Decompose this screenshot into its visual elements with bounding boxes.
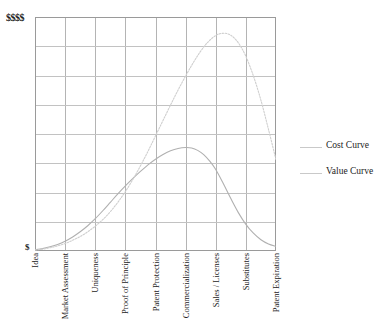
legend-swatch-value-curve (300, 173, 322, 174)
legend-item-cost-curve: Cost Curve (300, 136, 378, 162)
x-axis-tick-text: Patent Protection (151, 253, 160, 311)
legend-item-value-curve: Value Curve (300, 162, 378, 188)
x-axis-tick-text: Substitutes (242, 253, 251, 290)
y-axis-top-label: $$$$ (6, 12, 24, 23)
plot-area (35, 17, 276, 251)
chart-canvas: $$$$ $ IdeaMarket AssessmentUniquenessPr… (0, 0, 381, 336)
x-axis-tick-label: Sales / Licenses (209, 253, 223, 336)
chart-legend: Cost Curve Value Curve (300, 136, 378, 188)
x-axis-tick-label: Uniqueness (88, 253, 102, 336)
x-axis-tick-text: Commercialization (181, 253, 190, 318)
x-axis-tick-label: Patent Protection (149, 253, 163, 336)
x-axis-tick-label: Proof of Principle (118, 253, 132, 336)
y-axis-bottom-label: $ (25, 242, 30, 252)
series-line-value-curve (35, 33, 276, 250)
chart-svg (35, 17, 276, 251)
x-axis-tick-text: Patent Expiration (272, 253, 281, 312)
legend-label-value-curve: Value Curve (326, 166, 373, 176)
series-line-cost-curve (35, 148, 276, 250)
legend-label-cost-curve: Cost Curve (326, 140, 369, 150)
x-axis-tick-label: Patent Expiration (269, 253, 283, 336)
x-axis-tick-label: Market Assessment (58, 253, 72, 336)
legend-swatch-cost-curve (300, 147, 322, 148)
x-axis-tick-text: Sales / Licenses (212, 253, 221, 307)
series-lines (35, 33, 276, 250)
x-axis-tick-label: Idea (28, 253, 42, 336)
x-axis-tick-text: Market Assessment (61, 253, 70, 319)
x-axis-labels: IdeaMarket AssessmentUniquenessProof of … (35, 253, 276, 336)
x-axis-tick-label: Commercialization (179, 253, 193, 336)
x-axis-tick-text: Proof of Principle (121, 253, 130, 314)
x-axis-tick-text: Idea (31, 253, 40, 268)
x-axis-tick-label: Substitutes (239, 253, 253, 336)
x-axis-tick-text: Uniqueness (91, 253, 100, 293)
